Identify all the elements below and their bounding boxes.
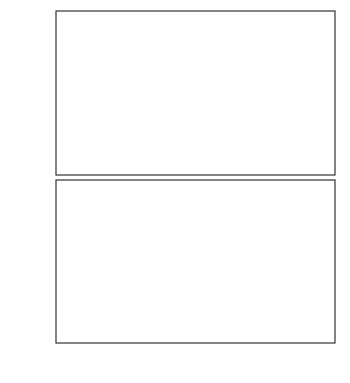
figure — [0, 0, 350, 383]
top-panel-frame — [56, 11, 335, 175]
bottom-panel-frame — [56, 180, 335, 343]
